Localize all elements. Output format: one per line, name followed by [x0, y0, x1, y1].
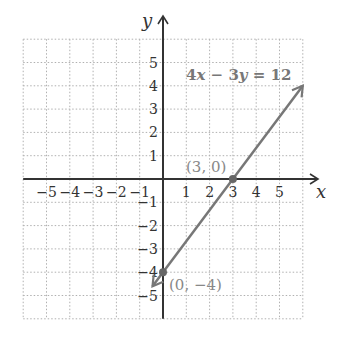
- y-tick-label: 3: [149, 101, 158, 117]
- y-tick-label: −3: [137, 241, 158, 257]
- x-tick-label: 4: [252, 184, 261, 200]
- x-tick-label: 5: [275, 184, 284, 200]
- y-tick-label: −5: [137, 288, 158, 304]
- x-tick-label: 3: [228, 184, 237, 200]
- y-tick-label: −1: [137, 194, 158, 210]
- x-tick-label: −5: [36, 184, 57, 200]
- intercept-point: [229, 175, 237, 183]
- equation-label: 4x − 3y = 12: [186, 66, 291, 84]
- point-label-x-intercept: (3, 0): [186, 158, 226, 176]
- x-tick-label: −4: [59, 184, 80, 200]
- y-axis-label: y: [141, 10, 153, 31]
- x-tick-label: −2: [106, 184, 127, 200]
- point-label-y-intercept: (0, −4): [169, 276, 222, 294]
- x-tick-label: 2: [205, 184, 214, 200]
- x-tick-label: −3: [83, 184, 104, 200]
- intercept-point: [159, 268, 167, 276]
- coordinate-plane: −5−4−3−2−11234554321−1−2−3−4−5 x y 4x − …: [0, 0, 342, 348]
- y-tick-label: 4: [149, 78, 158, 94]
- y-tick-label: −4: [137, 264, 158, 280]
- y-tick-label: 1: [149, 148, 158, 164]
- y-tick-label: 5: [149, 55, 158, 71]
- y-tick-label: 2: [149, 124, 158, 140]
- x-axis-label: x: [316, 181, 326, 202]
- y-tick-label: −2: [137, 218, 158, 234]
- axes: [23, 16, 318, 319]
- x-tick-label: 1: [182, 184, 191, 200]
